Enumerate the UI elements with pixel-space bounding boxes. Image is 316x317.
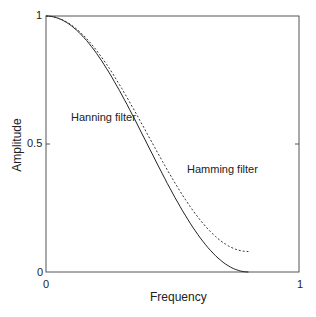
y-tick-label-1: 1 — [36, 9, 42, 21]
y-axis-label: Amplitude — [10, 118, 24, 171]
hanning-annotation: Hanning filter — [71, 111, 136, 123]
y-tick-label-0.5: 0.5 — [27, 137, 42, 149]
hamming-annotation: Hamming filter — [187, 163, 258, 175]
hanning-line — [46, 16, 248, 272]
y-tick-label-0: 0 — [37, 266, 43, 278]
plot-area — [0, 0, 316, 317]
x-tick-label-1: 1 — [297, 278, 303, 290]
axes-box — [46, 16, 299, 272]
hamming-line — [46, 16, 248, 252]
x-tick-label-0: 0 — [43, 278, 49, 290]
x-axis-label: Frequency — [150, 290, 207, 304]
